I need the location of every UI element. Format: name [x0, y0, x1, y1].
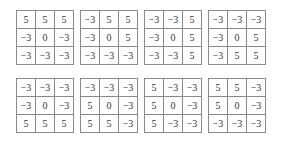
matrix-row: −3−3−3 — [209, 11, 266, 29]
matrix-cell: 0 — [228, 97, 247, 115]
matrix-cell: −3 — [55, 97, 74, 115]
matrix-cell: 5 — [209, 79, 228, 97]
matrix-row: 55−3 — [209, 79, 266, 97]
matrix-cell: −3 — [36, 79, 55, 97]
kernel-matrix-1: 555−30−3−3−3−3 — [16, 10, 74, 65]
kernel-matrix-4: −3−3−3−305−355 — [208, 10, 266, 65]
matrix-cell: 5 — [183, 29, 202, 47]
matrix-cell: 5 — [55, 11, 74, 29]
matrix-row: 555 — [17, 11, 74, 29]
matrix-cell: −3 — [247, 97, 266, 115]
matrix-cell: −3 — [36, 47, 55, 65]
matrix-row: 5−3−3 — [145, 79, 202, 97]
matrix-row: 55−3 — [81, 115, 138, 133]
matrix-cell: −3 — [81, 29, 100, 47]
matrix-cell: −3 — [100, 79, 119, 97]
matrix-cell: −3 — [145, 29, 164, 47]
matrix-cell: −3 — [247, 11, 266, 29]
kernel-matrix-6: −3−3−350−355−3 — [80, 78, 138, 133]
matrix-cell: −3 — [17, 97, 36, 115]
matrix-cell: 0 — [100, 29, 119, 47]
matrix-cell: 5 — [209, 97, 228, 115]
matrix-cell: 5 — [119, 11, 138, 29]
matrix-row: −305 — [145, 29, 202, 47]
matrix-cell: −3 — [145, 47, 164, 65]
matrix-row: −30−3 — [17, 97, 74, 115]
matrix-cell: −3 — [209, 29, 228, 47]
matrix-cell: −3 — [81, 79, 100, 97]
matrix-cell: 5 — [145, 97, 164, 115]
matrix-cell: 0 — [36, 97, 55, 115]
matrix-cell: −3 — [145, 11, 164, 29]
matrix-cell: 0 — [164, 29, 183, 47]
matrix-cell: −3 — [164, 79, 183, 97]
matrix-row: −30−3 — [17, 29, 74, 47]
matrix-cell: 5 — [36, 11, 55, 29]
matrix-row: −3−35 — [145, 47, 202, 65]
matrix-cell: 0 — [100, 97, 119, 115]
matrix-cell: −3 — [81, 47, 100, 65]
matrix-cell: −3 — [81, 11, 100, 29]
matrix-cell: 5 — [119, 29, 138, 47]
matrix-cell: 5 — [247, 47, 266, 65]
matrix-cell: 5 — [36, 115, 55, 133]
matrix-row: −355 — [81, 11, 138, 29]
matrix-cell: −3 — [119, 79, 138, 97]
matrix-row: 50−3 — [81, 97, 138, 115]
matrix-cell: 0 — [228, 29, 247, 47]
matrix-cell: −3 — [228, 11, 247, 29]
matrix-row: 50−3 — [209, 97, 266, 115]
kernel-matrix-2: −355−305−3−3−3 — [80, 10, 138, 65]
matrix-row: −3−3−3 — [17, 79, 74, 97]
matrix-cell: 5 — [247, 29, 266, 47]
matrix-cell: −3 — [119, 115, 138, 133]
matrix-row: −3−3−3 — [17, 47, 74, 65]
matrix-cell: −3 — [164, 11, 183, 29]
kernel-matrix-7: 5−3−350−35−3−3 — [144, 78, 202, 133]
matrix-cell: −3 — [55, 47, 74, 65]
matrix-row: −305 — [209, 29, 266, 47]
matrix-row: −3−3−3 — [81, 47, 138, 65]
matrix-cell: −3 — [55, 79, 74, 97]
matrix-row: 50−3 — [145, 97, 202, 115]
matrix-cell: 5 — [183, 11, 202, 29]
matrix-row: −305 — [81, 29, 138, 47]
matrix-cell: −3 — [209, 47, 228, 65]
matrix-cell: −3 — [183, 79, 202, 97]
matrix-cell: −3 — [164, 115, 183, 133]
matrix-cell: 5 — [81, 115, 100, 133]
matrix-cell: 0 — [36, 29, 55, 47]
matrix-cell: 5 — [228, 79, 247, 97]
matrix-cell: 5 — [55, 115, 74, 133]
matrix-cell: 5 — [81, 97, 100, 115]
matrix-row: −355 — [209, 47, 266, 65]
matrix-row: 5−3−3 — [145, 115, 202, 133]
matrix-cell: −3 — [55, 29, 74, 47]
matrix-cell: 5 — [17, 11, 36, 29]
matrix-cell: 5 — [145, 79, 164, 97]
kernel-matrix-8: 55−350−3−3−3−3 — [208, 78, 266, 133]
matrix-cell: −3 — [209, 11, 228, 29]
matrix-cell: −3 — [17, 79, 36, 97]
matrix-cell: 5 — [145, 115, 164, 133]
matrix-cell: −3 — [228, 115, 247, 133]
matrix-cell: −3 — [119, 47, 138, 65]
matrix-cell: −3 — [164, 47, 183, 65]
matrix-cell: 5 — [100, 11, 119, 29]
matrix-cell: 5 — [183, 47, 202, 65]
matrix-row: 555 — [17, 115, 74, 133]
matrix-row: −3−3−3 — [209, 115, 266, 133]
matrix-cell: −3 — [17, 29, 36, 47]
matrix-cell: 5 — [228, 47, 247, 65]
matrix-cell: 5 — [100, 115, 119, 133]
kernel-matrix-3: −3−35−305−3−35 — [144, 10, 202, 65]
matrix-cell: −3 — [100, 47, 119, 65]
matrix-cell: 0 — [164, 97, 183, 115]
matrix-row: −3−3−3 — [81, 79, 138, 97]
matrix-cell: −3 — [247, 79, 266, 97]
matrix-cell: 5 — [17, 115, 36, 133]
matrix-cell: −3 — [183, 115, 202, 133]
matrix-cell: −3 — [119, 97, 138, 115]
matrix-cell: −3 — [209, 115, 228, 133]
matrix-cell: −3 — [247, 115, 266, 133]
